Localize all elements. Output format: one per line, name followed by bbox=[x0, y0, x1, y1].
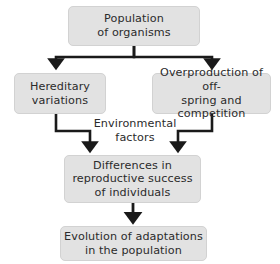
node-hereditary-variations: Hereditary variations bbox=[14, 73, 106, 114]
node-differences-reproductive-success: Differences in reproductive success of i… bbox=[64, 155, 201, 203]
node-population: Population of organisms bbox=[68, 6, 200, 46]
node-evolution-of-adaptations: Evolution of adaptations in the populati… bbox=[60, 226, 207, 261]
node-overproduction-competition: Overproduction of off- spring and compet… bbox=[152, 73, 271, 114]
flowchart-canvas: Population of organisms Hereditary varia… bbox=[0, 0, 280, 264]
connector-population-to-hereditary bbox=[56, 46, 134, 64]
connector-population-to-overproduction bbox=[134, 46, 212, 64]
label-environmental-factors: Environmental factors bbox=[78, 117, 192, 144]
